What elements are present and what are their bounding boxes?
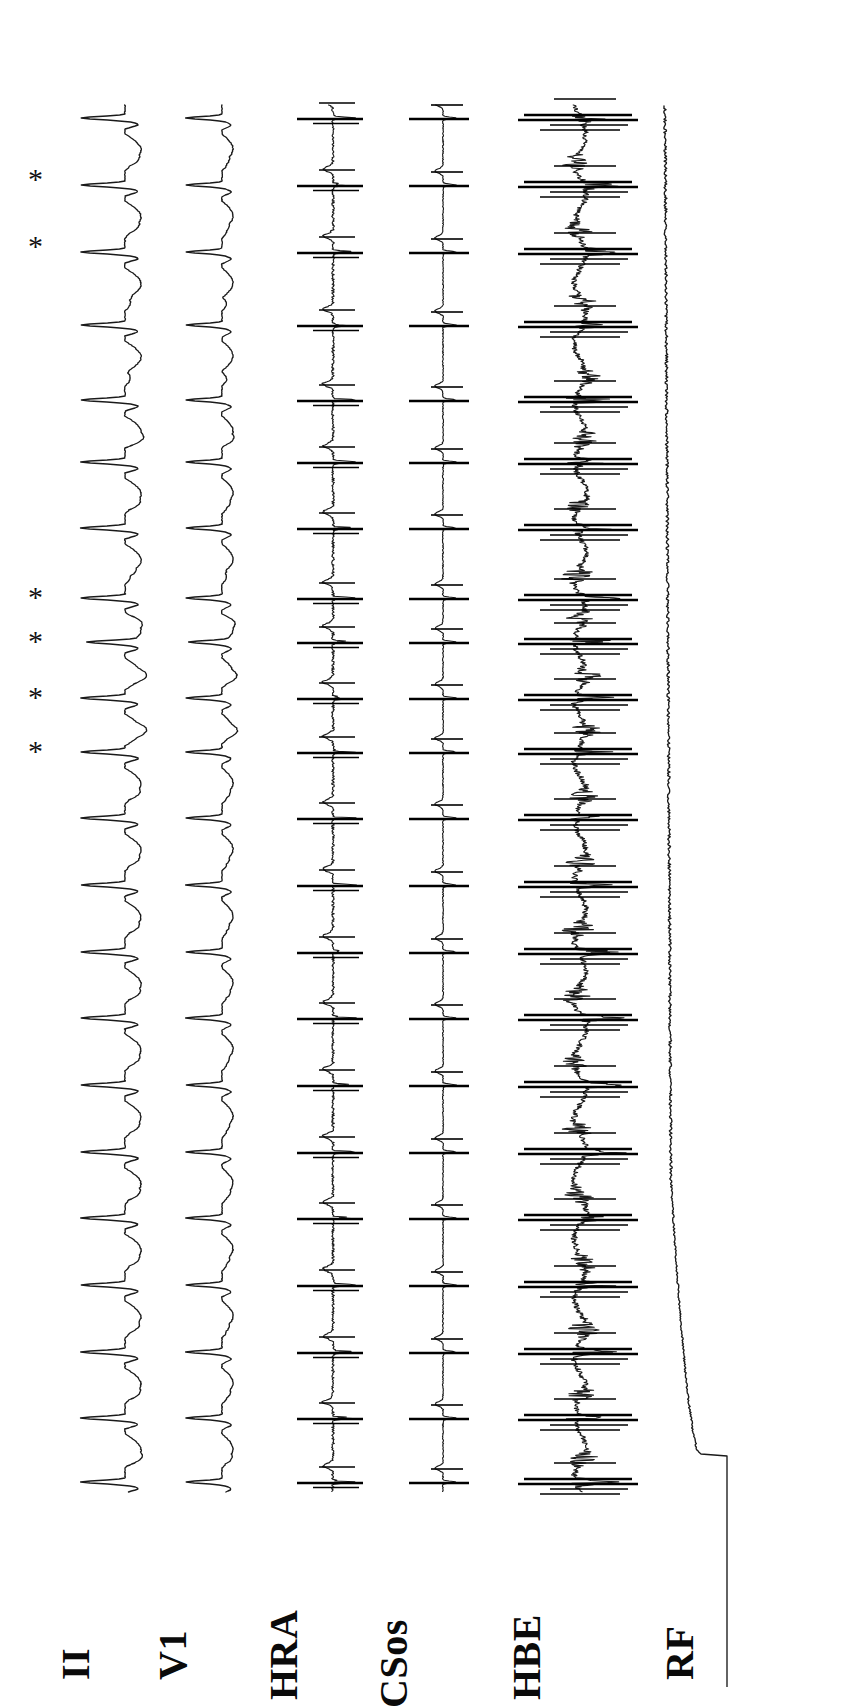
channel-label-hbe: HBE [507,1614,547,1700]
beat-marker-asterisk: * [28,626,43,656]
beat-marker-asterisk: * [28,682,43,712]
channel-label-ii: II [56,1648,96,1680]
beat-marker-asterisk: * [28,736,43,766]
beat-marker-asterisk: * [28,582,43,612]
channel-label-v1: V1 [153,1630,193,1680]
beat-marker-asterisk: * [28,231,43,261]
beat-marker-asterisk: * [28,164,43,194]
channel-label-rf: RF [660,1626,700,1680]
channel-label-hra: HRA [264,1610,304,1700]
channel-label-csos: CSos [374,1619,414,1708]
